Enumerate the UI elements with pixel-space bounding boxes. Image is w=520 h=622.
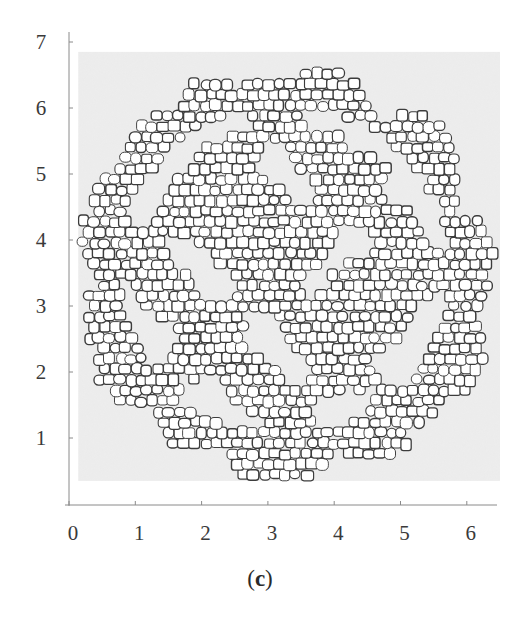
cell: [119, 342, 130, 352]
cell: [476, 225, 486, 237]
cell: [285, 311, 296, 320]
cell: [202, 142, 212, 153]
cell: [264, 290, 276, 301]
cell: [227, 386, 237, 397]
cell: [317, 248, 327, 260]
cell: [471, 343, 481, 354]
cell: [433, 332, 444, 343]
cell: [438, 365, 449, 376]
cell: [434, 121, 445, 130]
cell: [131, 174, 143, 184]
cell: [295, 120, 307, 132]
cell: [359, 354, 371, 364]
cell: [153, 364, 163, 374]
cell: [327, 227, 338, 239]
cell: [476, 249, 488, 260]
cell: [231, 270, 242, 280]
cell: [243, 102, 253, 111]
cell: [158, 418, 169, 427]
cell: [167, 439, 178, 448]
cell: [322, 300, 332, 310]
cell: [129, 132, 141, 143]
cell: [306, 206, 316, 217]
cell: [322, 69, 332, 79]
cell: [232, 438, 244, 447]
cell: [318, 163, 329, 172]
cell: [157, 248, 169, 259]
cell: [364, 152, 376, 164]
cell: [197, 427, 207, 439]
cell: [310, 174, 322, 186]
cell: [173, 196, 184, 207]
cell: [263, 270, 274, 281]
cell: [142, 154, 152, 163]
y-tick-label: 5: [36, 162, 47, 186]
cell: [137, 249, 148, 261]
cell: [211, 144, 223, 154]
cell: [316, 205, 328, 217]
cell: [432, 270, 443, 281]
cell: [323, 152, 334, 163]
cell: [263, 248, 275, 259]
cell: [177, 290, 189, 302]
cell: [338, 205, 349, 216]
cell: [303, 153, 313, 165]
cell: [100, 196, 110, 207]
cell: [311, 343, 322, 354]
cell: [232, 207, 244, 217]
cell: [94, 206, 105, 217]
cell: [258, 175, 268, 184]
cell: [263, 228, 275, 239]
cell: [312, 67, 322, 79]
cell: [215, 111, 226, 121]
cell: [423, 122, 435, 134]
cell: [147, 395, 157, 406]
cell: [185, 407, 197, 418]
cell: [315, 290, 327, 301]
cell: [231, 353, 242, 363]
cell: [363, 450, 375, 459]
cell: [137, 227, 148, 239]
cell: [98, 239, 110, 249]
cell: [237, 281, 247, 291]
cell: [455, 249, 465, 259]
cell: [120, 152, 132, 162]
cell: [386, 218, 397, 228]
cell: [158, 396, 168, 405]
cell: [278, 216, 289, 225]
cell: [290, 216, 301, 228]
cell: [284, 291, 295, 301]
cell: [156, 374, 168, 385]
cell: [200, 164, 211, 175]
cell: [275, 268, 286, 280]
cell: [353, 152, 363, 164]
cell: [153, 301, 165, 311]
cell: [396, 237, 406, 249]
cell: [179, 418, 191, 428]
cell: [331, 281, 342, 291]
cell: [189, 334, 200, 344]
cell: [343, 153, 354, 165]
cell: [243, 225, 254, 236]
cell: [252, 353, 263, 364]
cell: [371, 395, 382, 405]
cell: [412, 122, 423, 133]
cell: [292, 111, 303, 120]
cell: [199, 227, 210, 236]
cell: [216, 301, 227, 313]
cell: [327, 269, 337, 281]
cell: [344, 90, 354, 102]
cell: [324, 175, 334, 185]
cell: [401, 291, 413, 300]
cell: [422, 163, 434, 174]
y-tick-label: 4: [36, 228, 47, 252]
cell: [455, 375, 465, 386]
cell: [189, 438, 200, 449]
cell: [318, 102, 329, 112]
cell: [179, 184, 191, 196]
cell: [392, 270, 403, 280]
cell: [79, 215, 89, 226]
y-tick-label: 1: [36, 426, 47, 450]
cell: [280, 450, 291, 460]
cell: [259, 386, 269, 396]
